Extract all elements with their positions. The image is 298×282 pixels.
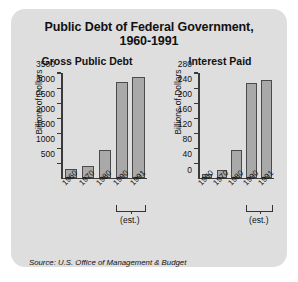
y-tick-label: 2500 (36, 89, 55, 99)
bar-slot (259, 73, 274, 178)
bar-slot (214, 73, 229, 178)
y-tick-label: 160 (178, 104, 192, 114)
y-tick (57, 72, 61, 73)
bracket-tick (131, 211, 132, 214)
y-tick (57, 163, 61, 164)
bar-group (200, 73, 275, 178)
y-tick (57, 118, 61, 119)
y-tick-label: 1500 (36, 119, 55, 129)
y-tick (194, 103, 198, 104)
plot-area: 19601970198019901991 5001000150020002500… (61, 73, 147, 179)
bar (116, 82, 128, 178)
bar-slot (200, 73, 215, 178)
y-tick-label: 120 (178, 119, 192, 129)
bar-slot (113, 73, 130, 178)
plot-area: 19601970198019901991 0408012016020024028… (198, 73, 274, 179)
bar (261, 80, 272, 177)
estimate-bracket (246, 205, 273, 212)
y-tick-label: 40 (183, 149, 192, 159)
estimate-bracket (116, 205, 146, 212)
bar-slot (79, 73, 96, 178)
y-tick (194, 118, 198, 119)
y-tick-label: 200 (178, 89, 192, 99)
x-slot: 1970 (79, 179, 96, 209)
bar-slot (229, 73, 244, 178)
y-tick-label: 240 (178, 74, 192, 84)
y-tick (194, 163, 198, 164)
bracket-tick (260, 211, 261, 214)
title-line-1: Public Debt of Federal Government, (44, 20, 253, 34)
y-tick (57, 88, 61, 89)
x-slot: 1960 (200, 179, 215, 209)
bar-group (63, 73, 148, 178)
y-tick (57, 148, 61, 149)
y-tick (194, 148, 198, 149)
chart-gross-public-debt: Gross Public Debt Billions of Dollars 19… (17, 55, 157, 251)
bar-slot (63, 73, 80, 178)
chart-interest-paid: Interest Paid Billions of Dollars 196019… (155, 55, 285, 251)
y-tick-label: 2000 (36, 104, 55, 114)
bar (246, 83, 257, 177)
x-slot: 1980 (96, 179, 113, 209)
y-tick-label: 80 (183, 134, 192, 144)
y-tick-label: 3000 (36, 74, 55, 84)
y-tick (194, 88, 198, 89)
y-tick (194, 133, 198, 134)
page-title: Public Debt of Federal Government, 1960-… (11, 20, 287, 48)
title-line-2: 1960-1991 (11, 34, 287, 48)
chart-panel: Public Debt of Federal Government, 1960-… (11, 9, 287, 267)
y-tick-label: 0 (187, 165, 192, 175)
estimate-label: (est.) (249, 215, 268, 225)
bar-slot (130, 73, 147, 178)
bar (132, 77, 144, 177)
x-slot: 1970 (214, 179, 229, 209)
y-tick (194, 72, 198, 73)
y-axis-label: Billions of Dollars (34, 59, 44, 145)
bar-slot (244, 73, 259, 178)
x-slot: 1960 (63, 179, 80, 209)
estimate-label: (est.) (120, 215, 139, 225)
y-tick-label: 500 (41, 149, 55, 159)
y-tick (57, 133, 61, 134)
y-tick-label: 1000 (36, 134, 55, 144)
y-tick-label: 3500 (36, 59, 55, 69)
source-note: Source: U.S. Office of Management & Budg… (29, 258, 186, 267)
y-tick (57, 103, 61, 104)
y-tick-label: 280 (178, 59, 192, 69)
y-axis-label: Billions of Dollars (173, 59, 183, 145)
x-slot: 1980 (229, 179, 244, 209)
bar-slot (96, 73, 113, 178)
